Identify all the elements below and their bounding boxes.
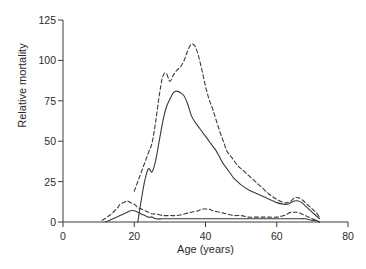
x-tick-label: 80 (328, 231, 366, 242)
chart-figure: 0255075100125 020406080 Age (years) Rela… (0, 0, 366, 269)
y-tick-label: 0 (18, 217, 56, 228)
x-tick-label: 0 (43, 231, 83, 242)
x-axis-ticks (63, 222, 348, 227)
y-tick-label: 25 (18, 177, 56, 188)
x-axis-title: Age (years) (63, 244, 348, 255)
x-tick-label: 60 (257, 231, 297, 242)
x-tick-label: 20 (114, 231, 154, 242)
data-series-group (102, 44, 319, 222)
series-line-upper-solid (138, 91, 320, 222)
y-axis-ticks (58, 20, 63, 222)
axes (58, 20, 348, 227)
y-axis-title: Relative mortality (17, 16, 28, 156)
x-tick-label: 40 (186, 231, 226, 242)
series-line-upper-dashed (134, 44, 319, 217)
